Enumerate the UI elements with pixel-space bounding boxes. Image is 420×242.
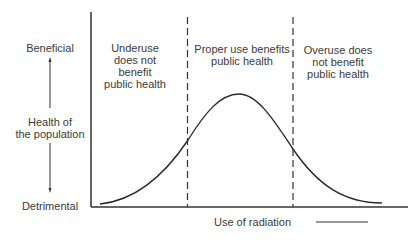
down-arrowhead-icon (49, 188, 52, 193)
underuse-region-label: Underuse does not benefit public health (95, 42, 175, 90)
up-arrowhead-icon (49, 57, 52, 62)
proper-use-region-label: Proper use benefits public health (192, 43, 292, 67)
detrimental-label: Detrimental (14, 200, 86, 212)
x-axis-label: Use of radiation (214, 216, 304, 228)
health-label-line2: the population (10, 128, 90, 140)
beneficial-label: Beneficial (20, 42, 80, 54)
health-label-line1: Health of (10, 116, 90, 128)
health-curve (100, 94, 382, 204)
overuse-region-label: Overuse does not benefit public health (298, 44, 378, 80)
